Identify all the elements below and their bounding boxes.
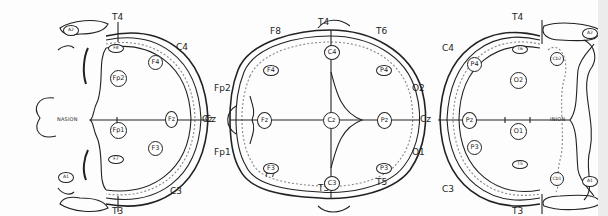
electrode-o1: O1 <box>510 123 527 140</box>
electrode-p3-back: P3 <box>467 140 482 155</box>
electrode-cb2: Cb2 <box>550 52 564 66</box>
electrode-pz-back: Pz <box>462 112 477 129</box>
eeg-electrode-diagram <box>0 0 608 216</box>
electrode-f7: F7 <box>108 155 124 164</box>
label-c4: C4 <box>176 43 188 52</box>
electrode-f3-top: F3 <box>263 163 279 174</box>
electrode-fz-top: Fz <box>257 112 272 129</box>
label-fp1-top: Fp1 <box>214 148 231 157</box>
label-o2-top: O2 <box>412 84 425 93</box>
electrode-f8: F8 <box>108 44 124 53</box>
label-t3: T3 <box>112 207 123 216</box>
label-t6-top: T6 <box>376 27 387 36</box>
electrode-f3: F3 <box>148 141 163 156</box>
electrode-cz-top: Cz <box>323 112 340 129</box>
electrode-p4-back: P4 <box>467 57 482 72</box>
electrode-a2-back: A2 <box>582 28 598 39</box>
electrode-o2: O2 <box>510 72 527 89</box>
electrode-t6-back: T6 <box>512 45 528 54</box>
label-f8-top: F8 <box>270 27 281 36</box>
label-t4-top: T4 <box>318 18 329 27</box>
label-c3-back: C3 <box>442 185 454 194</box>
landmark-inion: INION <box>550 117 565 122</box>
electrode-cb1: Cb1 <box>550 172 564 186</box>
electrode-fp2: Fp2 <box>110 70 127 87</box>
label-t4-back: T4 <box>512 13 523 22</box>
electrode-fp1: Fp1 <box>110 122 127 139</box>
electrode-c3-top: C3 <box>324 176 340 191</box>
electrode-a2: A2 <box>63 25 79 36</box>
label-t3-back: T3 <box>512 207 523 216</box>
label-o1-top: O1 <box>412 148 425 157</box>
electrode-pz-top: Pz <box>377 112 392 129</box>
electrode-f4-top: F4 <box>263 65 279 76</box>
electrode-c4-top: C4 <box>324 45 340 60</box>
label-t5-top: T5 <box>376 178 387 187</box>
electrode-a1: A1 <box>58 172 74 183</box>
electrode-f4: F4 <box>148 55 163 70</box>
electrode-p4-top: P4 <box>376 65 392 76</box>
label-t4: T4 <box>112 13 123 22</box>
electrode-t5-back: T5 <box>512 160 528 169</box>
label-c3: C3 <box>170 187 182 196</box>
label-fp2-top: Fp2 <box>214 84 231 93</box>
electrode-fz: Fz <box>165 111 178 128</box>
electrode-a1-back: A1 <box>582 176 598 187</box>
page-edge-shadow <box>598 0 608 216</box>
landmark-nasion: NASION <box>57 117 78 122</box>
label-c4-back: C4 <box>442 44 454 53</box>
label-cz-back: Cz <box>420 115 431 124</box>
label-cz-left: Cz <box>202 115 213 124</box>
electrode-p3-top: P3 <box>376 163 392 174</box>
